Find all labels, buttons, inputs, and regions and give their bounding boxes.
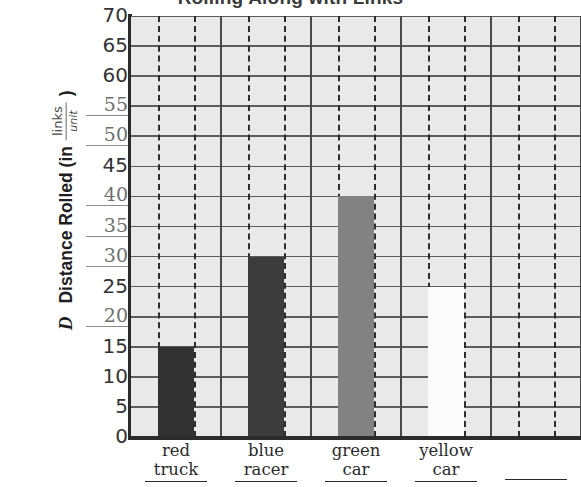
y-axis-title-area: D Distance Rolled (in links unit ): [0, 0, 84, 440]
gridline-horizontal: [131, 135, 581, 137]
y-tick-label-65: 65: [86, 35, 128, 55]
bar-red-truck: [158, 347, 194, 437]
y-tick-label-35: 35: [86, 216, 128, 237]
y-tick-label-45: 45: [86, 155, 128, 175]
x-label-line1: yellow: [401, 441, 491, 460]
category-separator: [400, 16, 402, 437]
x-label-line2: car: [325, 460, 387, 481]
category-separator: [490, 16, 492, 437]
bar-guide-dashed: [194, 16, 196, 437]
x-tick-label-green-car: greencar: [311, 441, 401, 482]
y-tick-label-25: 25: [86, 276, 128, 296]
y-axis-title-suffix: ): [56, 90, 77, 96]
gridline-horizontal: [131, 45, 581, 47]
bar-yellow-car: [428, 287, 464, 437]
x-label-line1: green: [311, 441, 401, 460]
x-tick-label-yellow-car: yellowcar: [401, 441, 491, 482]
bar-blue-racer: [248, 257, 284, 437]
x-label-line2: truck: [145, 460, 207, 481]
unit-numerator: links: [51, 102, 65, 140]
bar-guide-dashed: [518, 16, 520, 437]
bar-guide-dashed: [284, 16, 286, 437]
y-axis-variable-symbol: D: [55, 317, 77, 331]
bar-guide-dashed: [374, 16, 376, 437]
x-tick-label-blue-racer: blueracer: [221, 441, 311, 482]
gridline-horizontal: [131, 75, 581, 77]
y-tick-label-70: 70: [86, 5, 128, 25]
y-axis-tick-labels: 7065605550454035302520151050: [86, 0, 128, 487]
y-tick-label-50: 50: [86, 125, 128, 146]
category-separator: [310, 16, 312, 437]
x-axis-tick-labels: redtruckblueracergreencaryellowcar: [131, 441, 581, 487]
plot-area: [131, 16, 581, 437]
x-label-line2: racer: [235, 460, 297, 481]
y-tick-label-20: 20: [86, 306, 128, 327]
y-axis-title: D Distance Rolled (in links unit ): [52, 0, 81, 420]
y-axis-unit-fraction: links unit: [51, 102, 80, 140]
y-tick-label-15: 15: [86, 336, 128, 356]
x-label-line2: car: [415, 460, 477, 481]
x-label-line1: red: [131, 441, 221, 460]
gridline-horizontal: [131, 166, 581, 168]
gridline-horizontal: [131, 105, 581, 107]
x-axis-line: [128, 436, 581, 440]
y-tick-label-10: 10: [86, 366, 128, 386]
y-tick-label-40: 40: [86, 185, 128, 206]
y-tick-label-60: 60: [86, 65, 128, 85]
x-tick-label-empty: [491, 441, 581, 480]
bar-green-car: [338, 196, 374, 437]
x-tick-label-red-truck: redtruck: [131, 441, 221, 482]
x-label-line2: [505, 460, 567, 480]
y-axis-title-text: Distance Rolled (in: [56, 146, 77, 304]
bar-guide-dashed: [554, 16, 556, 437]
y-tick-label-5: 5: [86, 396, 128, 416]
x-label-line1: blue: [221, 441, 311, 460]
y-tick-label-0: 0: [86, 426, 128, 446]
y-tick-label-55: 55: [86, 95, 128, 116]
y-tick-label-30: 30: [86, 246, 128, 267]
gridline-horizontal: [131, 16, 581, 17]
unit-denominator: unit: [68, 106, 80, 135]
bar-guide-dashed: [464, 16, 466, 437]
x-label-line1: [491, 441, 581, 460]
category-separator: [220, 16, 222, 437]
chart-root: Rolling Along with Links D Distance Roll…: [0, 0, 581, 487]
